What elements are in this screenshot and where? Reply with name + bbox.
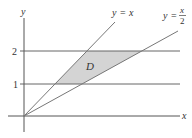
label-numerator: x (179, 5, 184, 15)
region-label: D (85, 60, 94, 72)
label-rhs: x (128, 7, 134, 18)
tick-label-2: 2 (12, 46, 17, 57)
label-eq: = (120, 7, 126, 18)
label-lhs: y (111, 7, 117, 18)
x-axis-label: x (181, 110, 187, 121)
label-y-equals-x-over-2: y = x 2 (162, 5, 186, 26)
y-axis-label: y (20, 6, 26, 17)
label-y-equals-x: y = x (111, 7, 134, 18)
region-d (55, 51, 142, 84)
diagram-canvas: y x 2 1 y = x y = x 2 D (0, 0, 192, 138)
line-y-equals-x-over-2 (24, 31, 178, 116)
tick-label-1: 1 (13, 79, 18, 90)
label-eq: = (171, 10, 177, 21)
label-denominator: 2 (180, 16, 185, 26)
label-lhs: y (162, 10, 168, 21)
